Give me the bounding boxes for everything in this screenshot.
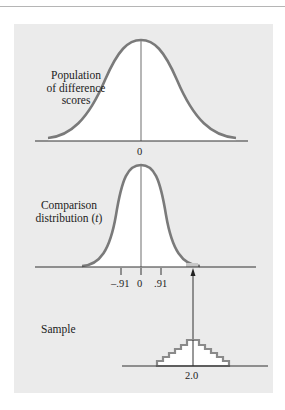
comparison-label: Comparison distribution (t): [30, 199, 108, 224]
sample-tick-mean: 2.0: [185, 370, 198, 381]
comparison-label-line1: Comparison: [30, 199, 108, 212]
comparison-tick-neg: –.91: [111, 278, 129, 289]
comparison-tick-zero: 0: [137, 278, 142, 289]
population-label: Population of difference scores: [24, 69, 128, 107]
population-label-line3: scores: [24, 94, 128, 107]
population-label-line2: of difference: [24, 82, 128, 95]
population-tick-0: 0: [137, 146, 142, 157]
sample-distribution: [122, 340, 268, 366]
sample-label: Sample: [41, 323, 76, 336]
comparison-label-line2: distribution (t): [30, 212, 108, 225]
population-label-line1: Population: [24, 69, 128, 82]
comparison-tick-pos: .91: [154, 278, 167, 289]
